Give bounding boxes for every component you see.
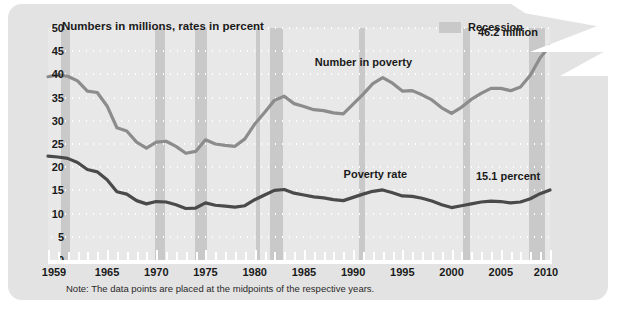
x-axis-tick: [87, 252, 89, 260]
x-axis-tick: [550, 250, 552, 261]
x-axis-tick: [432, 252, 434, 260]
x-axis-tick: [393, 252, 395, 260]
x-axis-tick: [333, 252, 335, 260]
y-axis-tick-label: 45: [36, 46, 64, 57]
x-axis-tick-label: 1990: [341, 266, 365, 278]
x-axis-tick: [78, 252, 80, 260]
series-path: [48, 46, 550, 154]
x-axis-tick: [491, 252, 493, 260]
x-axis-tick: [255, 250, 257, 261]
x-axis-tick: [58, 252, 60, 260]
y-axis-tick-label: 5: [36, 232, 64, 243]
y-axis-tick-label: 15: [36, 185, 64, 196]
x-axis-tick: [471, 252, 473, 260]
x-axis-tick: [343, 252, 345, 260]
end-value-poverty-rate: 15.1 percent: [476, 170, 540, 182]
x-axis-tick: [146, 252, 148, 260]
series-path: [48, 156, 550, 208]
x-axis-tick: [107, 250, 109, 261]
y-axis-tick-label: 10: [36, 209, 64, 220]
x-axis-tick: [117, 252, 119, 260]
x-axis-tick: [48, 250, 50, 261]
x-axis-tick: [501, 250, 503, 261]
poverty-chart-figure: 05101520253035404550 1959196519701975198…: [0, 0, 618, 312]
x-axis-tick: [353, 250, 355, 261]
x-axis-tick: [481, 252, 483, 260]
x-axis-tick: [383, 252, 385, 260]
x-axis-tick-label: 1970: [144, 266, 168, 278]
x-axis-tick: [225, 252, 227, 260]
x-axis-tick: [442, 252, 444, 260]
x-axis-tick: [196, 252, 198, 260]
x-axis-tick: [137, 252, 139, 260]
series-label-poverty-rate: Poverty rate: [344, 168, 408, 180]
x-axis-tick: [422, 252, 424, 260]
x-axis-tick: [540, 252, 542, 260]
x-axis-tick: [205, 250, 207, 261]
x-axis-tick: [284, 252, 286, 260]
chart-note: Note: The data points are placed at the …: [66, 283, 374, 294]
x-axis-tick: [265, 252, 267, 260]
chart-title: Numbers in millions, rates in percent: [62, 20, 264, 32]
x-axis-tick: [324, 252, 326, 260]
y-axis-tick-label: 40: [36, 69, 64, 80]
x-axis-tick: [245, 252, 247, 260]
x-axis-tick: [530, 252, 532, 260]
x-axis-tick-label: 1980: [242, 266, 266, 278]
x-axis-tick: [520, 252, 522, 260]
end-value-number-in-poverty: 46.2 million: [478, 26, 538, 38]
x-axis-tick: [235, 252, 237, 260]
series-label-number-in-poverty: Number in poverty: [315, 56, 412, 68]
x-axis-tick: [156, 250, 158, 261]
x-axis-tick: [294, 252, 296, 260]
x-axis-tick: [452, 250, 454, 261]
y-axis-tick-label: 30: [36, 116, 64, 127]
x-axis-line: [48, 260, 552, 264]
x-axis-tick: [304, 250, 306, 261]
x-axis-tick: [215, 252, 217, 260]
y-axis-tick-label: 20: [36, 162, 64, 173]
x-axis-tick-label: 1995: [390, 266, 414, 278]
x-axis-tick: [373, 252, 375, 260]
x-axis-tick: [176, 252, 178, 260]
y-axis-tick-label: 35: [36, 93, 64, 104]
x-axis-tick: [166, 252, 168, 260]
plot-area: [48, 28, 550, 260]
x-axis-tick-label: 1975: [193, 266, 217, 278]
x-axis-tick-label: 1959: [42, 266, 66, 278]
x-axis-tick-label: 1965: [95, 266, 119, 278]
x-axis-tick: [186, 252, 188, 260]
series-lines: [48, 28, 550, 260]
x-axis-tick: [461, 252, 463, 260]
x-axis-tick: [314, 252, 316, 260]
x-axis-tick: [127, 252, 129, 260]
x-axis-tick-label: 2005: [489, 266, 513, 278]
recession-swatch-icon: [439, 22, 461, 33]
x-axis-tick: [412, 252, 414, 260]
x-axis-tick: [363, 252, 365, 260]
x-axis-tick: [402, 250, 404, 261]
x-axis-tick-label: 2000: [439, 266, 463, 278]
x-axis-tick-label: 2010: [534, 266, 558, 278]
x-axis-tick: [68, 252, 70, 260]
x-axis-tick: [511, 252, 513, 260]
x-axis-tick: [97, 252, 99, 260]
y-axis-tick-label: 25: [36, 139, 64, 150]
x-axis-tick: [274, 252, 276, 260]
x-axis-tick-label: 1985: [292, 266, 316, 278]
y-axis-tick-label: 50: [36, 23, 64, 34]
